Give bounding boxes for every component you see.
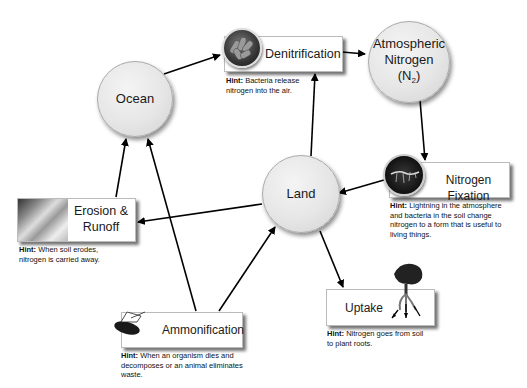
- nitrogen-fixation-hint: Hint: Lightning in the atmosphere and ba…: [390, 201, 505, 239]
- erosion-runoff-label: Erosion & Runoff: [70, 203, 132, 235]
- arrow-fixation-to-land: [339, 180, 384, 193]
- erosion-runoff-hint: Hint: When soil erodes, nitrogen is carr…: [19, 245, 109, 264]
- denitrification-hint: Hint: Bacteria release nitrogen into the…: [226, 76, 306, 95]
- arrow-land-to-uptake: [320, 231, 343, 287]
- arrow-erosion-to-ocean: [116, 139, 126, 197]
- n2-formula: (N2): [373, 68, 445, 89]
- arrow-ocean-to-denitrification: [164, 55, 220, 74]
- erosion-runoff-box: Erosion & Runoff: [17, 198, 136, 242]
- ocean-node: Ocean: [97, 61, 173, 137]
- atmospheric-nitrogen-node: Atmospheric Nitrogen (N2): [368, 21, 450, 103]
- denitrification-label: Denitrification: [265, 46, 341, 62]
- arrow-land-to-denitrification: [311, 74, 315, 156]
- plant-roots-icon: [388, 260, 428, 320]
- land-node: Land: [262, 155, 340, 233]
- nitrogen-cycle-diagram: Ocean Atmospheric Nitrogen (N2) Land Den…: [0, 0, 527, 388]
- arrow-land-to-erosion: [138, 204, 262, 222]
- bacteria-icon: [222, 28, 262, 68]
- arrow-ammonification-to-land: [219, 227, 275, 311]
- nitrogen-fixation-label: Nitrogen Fixation: [428, 172, 509, 204]
- uptake-hint: Hint: Nitrogen goes from soil to plant r…: [327, 329, 427, 348]
- dead-insect-icon: [111, 308, 151, 338]
- land-label: Land: [287, 186, 316, 202]
- water-erosion-icon: [18, 199, 68, 241]
- ammonification-hint: Hint: When an organism dies and decompos…: [121, 351, 246, 380]
- ocean-label: Ocean: [116, 91, 154, 107]
- lightning-icon: [383, 154, 425, 196]
- uptake-label: Uptake: [345, 300, 383, 316]
- arrow-denitrification-to-atmosphere: [342, 52, 365, 54]
- ammonification-label: Ammonification: [162, 322, 244, 338]
- arrow-atmosphere-to-fixation: [420, 100, 425, 160]
- arrow-ammonification-to-ocean: [148, 139, 196, 311]
- atmospheric-nitrogen-label: Atmospheric Nitrogen (N2): [373, 36, 445, 89]
